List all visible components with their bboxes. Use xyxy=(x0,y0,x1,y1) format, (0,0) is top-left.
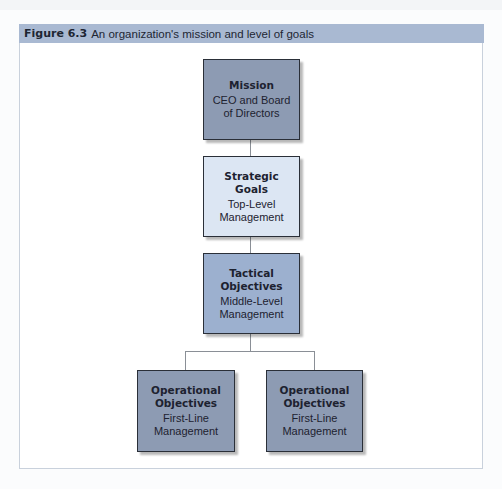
connector-mission-strategic xyxy=(250,139,251,156)
tactical-objectives-box: Tactical Objectives Middle-Level Managem… xyxy=(203,253,300,334)
strategic-goals-title: Strategic Goals xyxy=(217,170,287,196)
figure-number: Figure 6.3 xyxy=(24,27,87,40)
page-top-strip xyxy=(0,0,502,10)
operational-objectives-title-2: Operational Objectives xyxy=(272,384,358,410)
connector-horizontal xyxy=(185,351,315,352)
connector-operational-right xyxy=(314,351,315,370)
tactical-objectives-subtitle: Middle-Level Management xyxy=(212,295,292,321)
figure-caption-bar: Figure 6.3 An organization's mission and… xyxy=(19,24,484,43)
operational-objectives-box-2: Operational Objectives First-Line Manage… xyxy=(266,370,363,452)
operational-objectives-title-1: Operational Objectives xyxy=(143,384,229,410)
connector-tactical-down xyxy=(250,333,251,351)
operational-objectives-subtitle-1: First-Line Management xyxy=(148,412,224,438)
mission-title: Mission xyxy=(229,79,274,92)
mission-box: Mission CEO and Board of Directors xyxy=(203,59,300,140)
figure-caption: An organization's mission and level of g… xyxy=(91,28,314,40)
mission-subtitle: CEO and Board of Directors xyxy=(212,94,292,120)
connector-strategic-tactical xyxy=(250,236,251,253)
connector-operational-left xyxy=(185,351,186,370)
strategic-goals-subtitle: Top-Level Management xyxy=(217,198,287,224)
tactical-objectives-title: Tactical Objectives xyxy=(212,267,292,293)
operational-objectives-box-1: Operational Objectives First-Line Manage… xyxy=(137,370,235,452)
operational-objectives-subtitle-2: First-Line Management xyxy=(277,412,353,438)
strategic-goals-box: Strategic Goals Top-Level Management xyxy=(203,156,300,237)
